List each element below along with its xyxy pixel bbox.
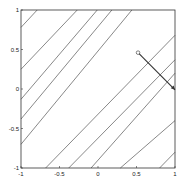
x-tick-label: 0 [96, 171, 100, 177]
x-tick-label: 1 [173, 171, 177, 177]
y-tick-label: -0.5 [9, 126, 20, 132]
y-tick-label: 0 [16, 86, 20, 92]
contour-line [21, 10, 77, 69]
contour-line [21, 10, 37, 27]
x-tick-label: 0.5 [132, 171, 141, 177]
x-tick-label: -0.5 [54, 171, 65, 177]
plot-frame [21, 10, 175, 168]
contour-line [21, 10, 112, 119]
contour-line [46, 35, 175, 168]
start-point-marker [136, 51, 140, 55]
contour-line [91, 73, 175, 168]
contour-line [21, 10, 97, 99]
y-tick-label: 0.5 [11, 47, 20, 53]
y-tick-label: 1 [16, 7, 20, 13]
contour-plot: -1-0.500.51 -1-0.500.51 [0, 0, 185, 184]
contour-line [21, 10, 132, 144]
y-tick-label: -1 [14, 165, 20, 171]
x-tick-label: -1 [18, 171, 24, 177]
descent-path [136, 51, 175, 90]
contour-line [160, 152, 175, 168]
contour-line [69, 60, 175, 168]
path-segment [138, 53, 175, 90]
contour-lines [21, 10, 175, 168]
